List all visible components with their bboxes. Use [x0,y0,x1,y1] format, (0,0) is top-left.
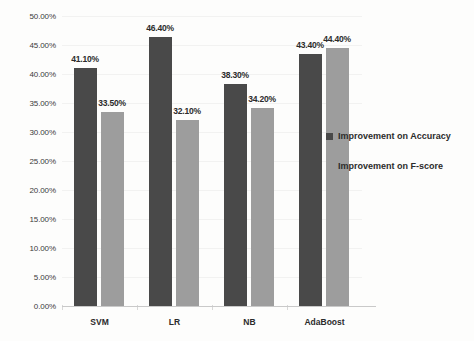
bar-group: 38.30%34.20%NB [212,16,287,306]
bar[interactable] [101,112,124,306]
bar-group: 41.10%33.50%SVM [62,16,137,306]
bar-value-label: 38.30% [221,70,249,80]
legend-label: Improvement on Accuracy [338,131,451,141]
y-axis-tick-label: 40.00% [29,70,56,79]
y-axis-tick-label: 5.00% [34,273,56,282]
x-axis-line [62,306,376,307]
legend-item[interactable]: Improvement on Accuracy [326,131,474,141]
bar-chart: 0.00%5.00%10.00%15.00%20.00%25.00%30.00%… [0,0,474,341]
y-axis-tick-label: 45.00% [29,41,56,50]
y-axis-tick-label: 35.00% [29,99,56,108]
bar-value-label: 41.10% [71,54,99,64]
bar[interactable] [251,108,274,306]
y-axis-tick-label: 15.00% [29,215,56,224]
bar-group: 46.40%32.10%LR [137,16,212,306]
bar-value-label: 32.10% [173,106,201,116]
bar-value-label: 46.40% [146,23,174,33]
y-axis-tick-label: 20.00% [29,186,56,195]
legend-label: Improvement on F-score [338,161,443,171]
x-axis-category-label: NB [243,317,255,327]
bar[interactable] [299,54,322,306]
bar-value-label: 33.50% [98,98,126,108]
bar[interactable] [74,68,97,306]
legend-item[interactable]: Improvement on F-score [326,161,474,171]
y-axis-tick-label: 0.00% [34,302,56,311]
bar[interactable] [224,84,247,306]
bar-value-label: 43.40% [296,40,324,50]
x-axis-category-label: LR [169,317,180,327]
y-axis-tick-label: 30.00% [29,128,56,137]
y-axis-tick-label: 10.00% [29,244,56,253]
plot-area: 41.10%33.50%SVM46.40%32.10%LR38.30%34.20… [62,16,362,306]
y-axis-tick-label: 50.00% [29,12,56,21]
bar-value-label: 34.20% [248,94,276,104]
bar[interactable] [176,120,199,306]
legend-swatch-icon [326,163,333,170]
x-axis-category-label: SVM [90,317,108,327]
bar-pair: 38.30%34.20% [224,16,276,306]
x-axis-category-label: AdaBoost [304,317,344,327]
bar[interactable] [149,37,172,306]
bar-value-label: 44.40% [323,34,351,44]
y-axis-tick-label: 25.00% [29,157,56,166]
y-axis: 0.00%5.00%10.00%15.00%20.00%25.00%30.00%… [0,16,56,306]
chart-legend: Improvement on AccuracyImprovement on F-… [326,131,474,191]
legend-swatch-icon [326,133,333,140]
bar-pair: 46.40%32.10% [149,16,201,306]
bar-pair: 41.10%33.50% [74,16,126,306]
